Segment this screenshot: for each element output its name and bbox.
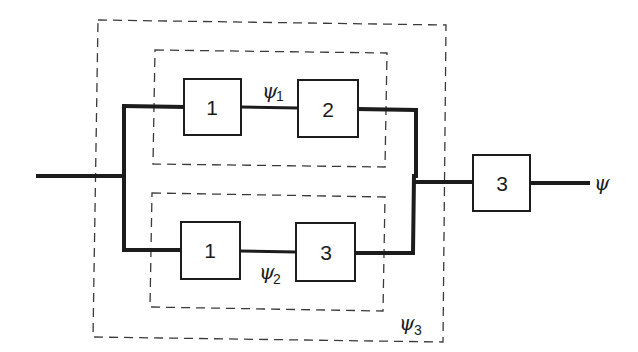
block-bottom-3: 3	[296, 223, 355, 281]
block-label: 3	[320, 241, 332, 264]
block-top-2: 2	[298, 80, 358, 137]
block-bottom-1: 1	[181, 222, 240, 279]
psi-symbol: ψ	[594, 171, 610, 195]
label-psi1: ψ 1	[262, 79, 284, 104]
group-psi3-boundary	[93, 20, 446, 342]
block-label: 3	[496, 172, 508, 195]
block-label: 1	[206, 96, 218, 119]
label-psi3: ψ 3	[399, 311, 422, 338]
lower-branch-mid	[240, 251, 296, 252]
reliability-diagram: 1 2 1 3 3 ψ 1 ψ 2 ψ 3 ψ	[0, 0, 638, 352]
label-psi2: ψ 2	[259, 260, 281, 287]
psi-subscript: 1	[276, 88, 284, 104]
label-output-psi: ψ	[594, 171, 610, 195]
block-label: 1	[204, 239, 216, 262]
psi-subscript: 2	[273, 271, 281, 287]
upper-branch-in	[124, 106, 184, 107]
block-series-3: 3	[473, 155, 530, 211]
upper-branch-mid	[241, 107, 298, 108]
psi-subscript: 3	[414, 322, 422, 338]
psi-symbol: ψ	[399, 311, 415, 335]
upper-branch-out	[358, 109, 416, 176]
block-label: 2	[322, 98, 334, 121]
block-top-1: 1	[184, 79, 241, 135]
